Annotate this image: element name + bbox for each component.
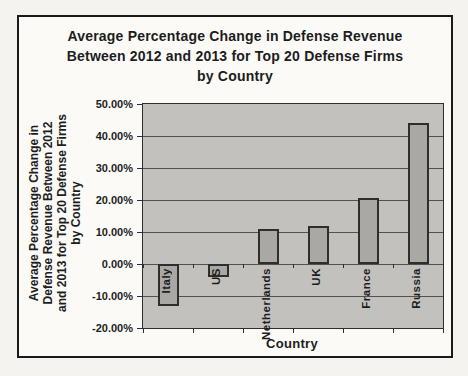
y-axis-title-line-3: and 2013 for Top 20 Defense Firms [55, 88, 69, 338]
category-label-france: France [360, 268, 372, 309]
gridline-10 [143, 232, 443, 233]
plot-area: 50.00%40.00%30.00%20.00%10.00%0.00%-10.0… [142, 103, 444, 329]
category-label-us: US [210, 268, 222, 285]
category-axis-tick [443, 329, 444, 333]
category-label-netherlands: Netherlands [260, 268, 272, 340]
y-axis-tick [137, 296, 143, 297]
y-tick-label-20.00%: 20.00% [71, 194, 133, 206]
y-axis-title-line-1: Average Percentage Change in [27, 88, 41, 338]
category-axis-tick [343, 329, 344, 333]
y-tick-label-0.00%: 0.00% [71, 258, 133, 270]
chart-title-line-3: by Country [19, 66, 451, 86]
y-axis-tick [137, 200, 143, 201]
category-axis-tick [243, 264, 244, 268]
category-axis-tick [193, 329, 194, 333]
category-axis-tick [343, 264, 344, 268]
bar-russia [408, 123, 429, 264]
y-tick-label-30.00%: 30.00% [71, 162, 133, 174]
chart-title-line-1: Average Percentage Change in Defense Rev… [19, 26, 451, 46]
gridline--10 [143, 296, 443, 297]
chart-title-line-2: Between 2012 and 2013 for Top 20 Defense… [19, 46, 451, 66]
y-tick-label-40.00%: 40.00% [71, 130, 133, 142]
chart-title: Average Percentage Change in Defense Rev… [19, 26, 451, 86]
bar-france [358, 198, 379, 264]
gridline-40 [143, 136, 443, 137]
category-label-italy: Italy [160, 268, 172, 294]
gridline-30 [143, 168, 443, 169]
category-axis-tick [393, 329, 394, 333]
x-axis-title: Country [142, 336, 442, 351]
chart-image: Average Percentage Change in Defense Rev… [0, 0, 468, 376]
chart-frame: Average Percentage Change in Defense Rev… [17, 15, 453, 358]
bar-uk [308, 226, 329, 264]
bar-netherlands [258, 229, 279, 264]
category-axis-tick [143, 329, 144, 333]
y-tick-label--10.00%: -10.00% [71, 290, 133, 302]
y-tick-label-10.00%: 10.00% [71, 226, 133, 238]
y-axis-tick [137, 136, 143, 137]
gridline-20 [143, 200, 443, 201]
category-axis-tick [193, 264, 194, 268]
y-axis-tick [137, 168, 143, 169]
category-axis-tick [293, 329, 294, 333]
category-axis-tick [143, 264, 144, 268]
category-axis-tick [443, 264, 444, 268]
category-axis-tick [393, 264, 394, 268]
y-tick-label--20.00%: -20.00% [71, 322, 133, 334]
y-axis-title-line-2: Defense Revenue Between 2012 [41, 88, 55, 338]
category-axis-tick [293, 264, 294, 268]
y-axis-tick [137, 104, 143, 105]
category-label-uk: UK [310, 268, 322, 286]
category-axis-tick [243, 329, 244, 333]
category-label-russia: Russia [410, 268, 422, 309]
y-axis-tick [137, 232, 143, 233]
y-tick-label-50.00%: 50.00% [71, 98, 133, 110]
